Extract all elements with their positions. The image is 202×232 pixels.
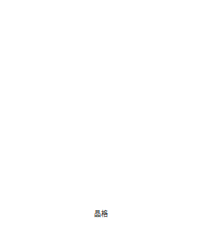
crystal-lattice-diagram xyxy=(0,0,202,206)
lattice-figure: 晶格 xyxy=(0,0,202,232)
figure-caption: 晶格 xyxy=(0,210,202,219)
